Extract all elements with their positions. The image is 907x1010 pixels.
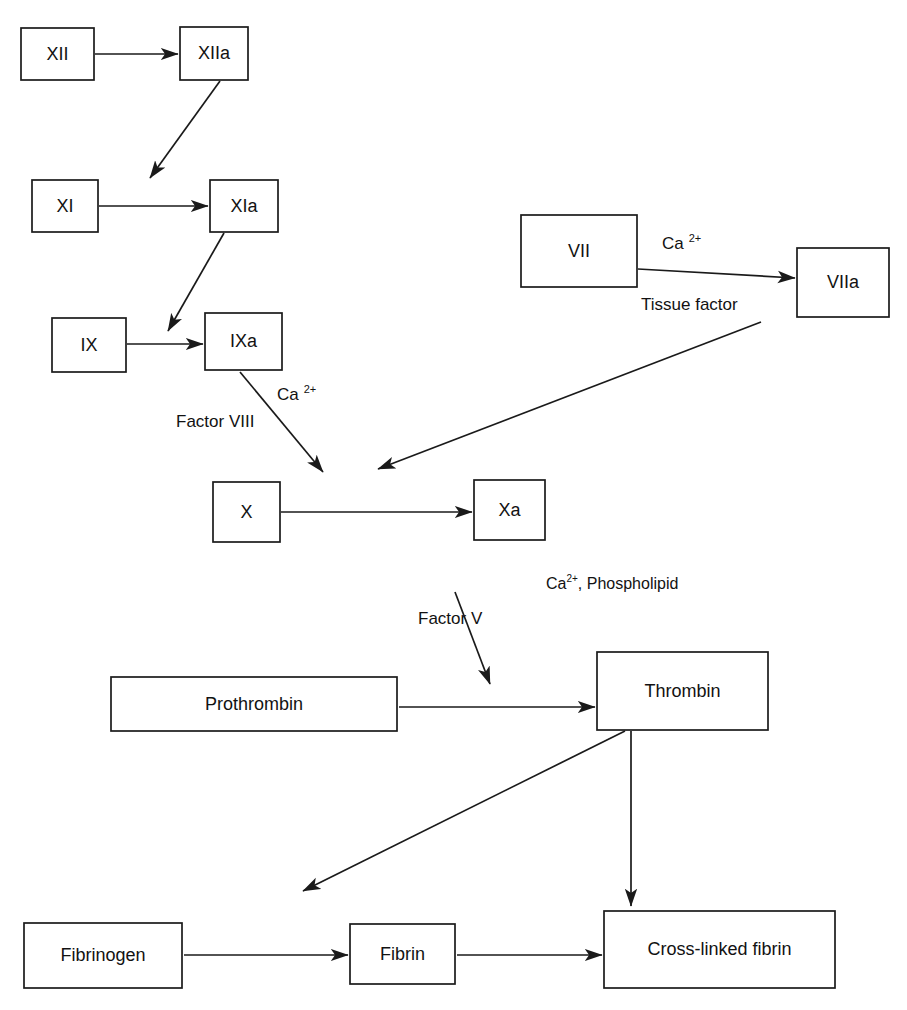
node-ixa[interactable]: IXa [205,313,282,370]
edge-thrombin-to-fibrinogen [303,731,625,891]
node-thrombin-label: Thrombin [644,681,720,701]
edge-xiia-to-xi-xia [150,81,220,178]
node-vii-label: VII [568,241,590,261]
label-tissue-factor: Tissue factor [641,295,738,314]
nodes-layer: XIIXIIaXIXIaIXIXaVIIVIIaXXaProthrombinTh… [21,27,889,988]
label-ca-phospholipid-tail: , Phospholipid [578,575,679,592]
node-xiia[interactable]: XIIa [180,27,248,80]
node-xi[interactable]: XI [32,180,98,232]
node-fibrinogen-label: Fibrinogen [60,945,145,965]
node-prothrombin[interactable]: Prothrombin [111,677,397,731]
node-ix-label: IX [80,335,97,355]
node-crosslinked-label: Cross-linked fibrin [647,939,791,959]
node-x[interactable]: X [213,482,280,542]
cascade-canvas: XIIXIIaXIXIaIXIXaVIIVIIaXXaProthrombinTh… [0,0,907,1010]
node-ix[interactable]: IX [52,318,126,372]
label-ca-ion-vii-superscript: 2+ [689,232,702,244]
node-x-label: X [240,502,252,522]
label-ca-phospholipid-superscript: 2+ [566,573,578,584]
node-viia-label: VIIa [827,272,860,292]
node-vii[interactable]: VII [521,215,637,287]
node-fibrin[interactable]: Fibrin [350,924,455,984]
coagulation-cascade-diagram: XIIXIIaXIXIaIXIXaVIIVIIaXXaProthrombinTh… [0,0,907,1010]
node-thrombin[interactable]: Thrombin [597,652,768,730]
node-xa-label: Xa [498,500,521,520]
node-crosslinked[interactable]: Cross-linked fibrin [604,911,835,988]
node-ixa-label: IXa [230,331,258,351]
node-xii-label: XII [46,44,68,64]
node-prothrombin-label: Prothrombin [205,694,303,714]
node-xia-label: XIa [230,196,258,216]
label-ca-ion-vii: Ca2+ [662,232,701,254]
edge-labels-layer: Ca2+Tissue factorCa2+Factor VIIICa2+, Ph… [176,232,738,629]
label-factor-v: Factor V [418,609,483,628]
edge-vii-to-viia [638,269,795,278]
edges-layer [95,54,795,955]
label-factor-viii: Factor VIII [176,412,254,431]
node-xia[interactable]: XIa [210,180,278,232]
node-fibrin-label: Fibrin [380,944,425,964]
node-viia[interactable]: VIIa [797,248,889,317]
node-xi-label: XI [56,196,73,216]
label-ca-phospholipid: Ca2+, Phospholipid [546,573,678,593]
node-xa[interactable]: Xa [474,480,545,540]
node-fibrinogen[interactable]: Fibrinogen [24,923,182,988]
node-xii[interactable]: XII [21,28,94,80]
node-xiia-label: XIIa [198,43,231,63]
edge-viia-to-x [378,322,761,469]
edge-factorv-to-prothrombin [455,592,490,684]
label-ca-ion-ixa: Ca2+ [277,383,316,405]
label-ca-ion-ixa-superscript: 2+ [304,383,317,395]
